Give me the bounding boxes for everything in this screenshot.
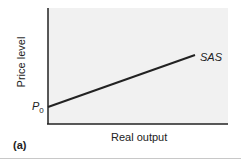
- p0-tick-label: P0: [32, 100, 44, 115]
- panel-label: (a): [13, 139, 26, 151]
- sas-curve: [48, 55, 195, 107]
- p0-subscript: 0: [39, 106, 43, 115]
- bottom-divider: [0, 158, 241, 159]
- sas-label: SAS: [200, 51, 222, 63]
- x-axis-label: Real output: [111, 131, 167, 143]
- y-axis-label: Price level: [15, 37, 27, 88]
